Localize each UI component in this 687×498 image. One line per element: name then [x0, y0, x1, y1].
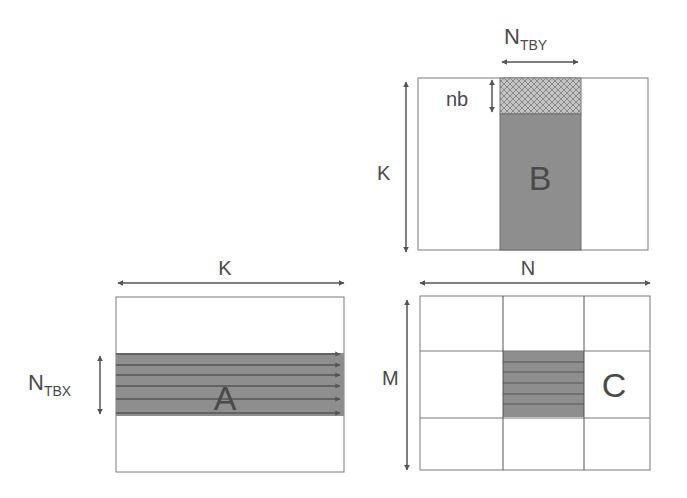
matrix-b-name: B: [529, 159, 552, 197]
matrix-a: K A NTBX: [28, 257, 344, 472]
matrix-c-left-label: M: [382, 367, 399, 389]
matrix-a-name: A: [214, 379, 237, 417]
matrix-b-top-label: NTBY: [504, 24, 548, 53]
matrix-b-nb-block: [500, 78, 581, 114]
matrix-b: B NTBY nb K: [377, 24, 648, 252]
matrix-c-name: C: [602, 366, 627, 404]
matrix-c-shaded-tile: [503, 351, 584, 417]
matrix-a-top-label: K: [218, 257, 232, 279]
matrix-b-left-label: K: [377, 162, 391, 184]
matrix-a-left-label: NTBX: [28, 370, 72, 399]
matrix-c-top-label: N: [521, 257, 535, 279]
matrix-c: N C M: [382, 257, 650, 470]
nb-label: nb: [446, 88, 468, 110]
matrix-tiling-diagram: B NTBY nb K K A NTBX N: [0, 0, 687, 498]
